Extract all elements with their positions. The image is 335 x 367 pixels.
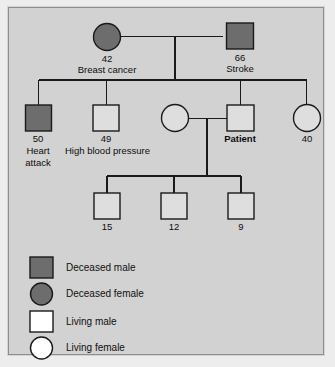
label-g2-son2-condition: High blood pressure bbox=[65, 145, 150, 156]
person-g2-daughter-living-female bbox=[294, 105, 321, 132]
label-g3-child3-age: 9 bbox=[238, 221, 243, 232]
person-g3-child2-living-male bbox=[161, 193, 187, 219]
legend-label-deceased-male: Deceased male bbox=[66, 262, 135, 273]
legend-label-living-male: Living male bbox=[66, 316, 117, 327]
legend-label-living-female: Living female bbox=[66, 342, 125, 353]
label-g3-child1-age: 15 bbox=[102, 221, 113, 232]
legend-label-deceased-female: Deceased female bbox=[66, 288, 144, 299]
label-g2-patient: Patient bbox=[224, 133, 256, 144]
pedigree-chart: 42 Breast cancer 66 Stroke 50 Heart atta… bbox=[0, 0, 335, 367]
label-g1-father-condition: Stroke bbox=[226, 63, 253, 74]
label-g1-mother-condition: Breast cancer bbox=[78, 64, 137, 75]
person-g3-child1-living-male bbox=[94, 193, 120, 219]
person-g2-son1-deceased-male bbox=[26, 105, 52, 131]
person-g2-patient-living-male bbox=[227, 105, 254, 131]
legend-symbol-deceased-female bbox=[31, 283, 53, 305]
legend-symbol-deceased-male bbox=[30, 257, 53, 278]
label-g2-son2-age: 49 bbox=[101, 133, 112, 144]
label-g2-son1-condition-line2: attack bbox=[25, 157, 50, 168]
label-g2-daughter-age: 40 bbox=[302, 133, 313, 144]
person-g1-mother-deceased-female bbox=[94, 24, 121, 51]
person-g2-son2-living-male bbox=[93, 105, 119, 131]
label-g1-mother-age: 42 bbox=[102, 53, 113, 64]
pedigree-svg bbox=[0, 0, 335, 367]
person-g2-spouse-living-female bbox=[162, 105, 189, 132]
legend-symbol-living-male bbox=[30, 311, 53, 332]
person-g1-father-deceased-male bbox=[227, 23, 254, 49]
label-g2-son1-age: 50 bbox=[33, 133, 44, 144]
label-g2-son1-condition-line1: Heart bbox=[26, 145, 49, 156]
label-g3-child2-age: 12 bbox=[169, 221, 180, 232]
person-g3-child3-living-male bbox=[228, 193, 254, 219]
legend-symbol-living-female bbox=[31, 337, 53, 359]
label-g1-father-age: 66 bbox=[235, 52, 246, 63]
